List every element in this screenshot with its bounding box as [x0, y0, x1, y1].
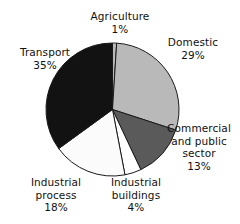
slice-label-agriculture: Agriculture 1% [62, 10, 178, 35]
slice-label-industrial-process-line1: Industrial [14, 176, 98, 189]
slice-label-industrial-buildings-value: 4% [98, 201, 174, 214]
slice-label-industrial-buildings-line2: buildings [98, 189, 174, 202]
slice-label-domestic-value: 29% [150, 49, 236, 62]
slice-label-agriculture-name: Agriculture [62, 10, 178, 23]
pie-chart-figure: Agriculture 1% Domestic 29% Transport 35… [0, 0, 240, 224]
slice-label-commercial-line1: Commercial [160, 122, 238, 135]
slice-label-transport-name: Transport [2, 46, 88, 59]
slice-label-transport-value: 35% [2, 59, 88, 72]
slice-label-industrial-buildings: Industrial buildings 4% [98, 176, 174, 214]
slice-label-commercial-value: 13% [160, 160, 238, 173]
slice-label-industrial-process-value: 18% [14, 201, 98, 214]
slice-label-domestic-name: Domestic [150, 36, 236, 49]
slice-label-domestic: Domestic 29% [150, 36, 236, 61]
slice-label-transport: Transport 35% [2, 46, 88, 71]
slice-label-industrial-process: Industrial process 18% [14, 176, 98, 214]
slice-label-industrial-buildings-line1: Industrial [98, 176, 174, 189]
slice-label-agriculture-value: 1% [62, 23, 178, 36]
slice-label-commercial-line2: and public [160, 135, 238, 148]
slice-label-industrial-process-line2: process [14, 189, 98, 202]
slice-label-commercial-line3: sector [160, 147, 238, 160]
slice-label-commercial-and-public-sector: Commercial and public sector 13% [160, 122, 238, 172]
